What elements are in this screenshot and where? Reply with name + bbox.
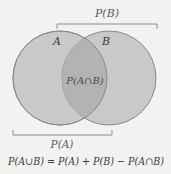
bracket-p-b: [57, 24, 157, 29]
venn-diagram: P(B) A B P(A∩B) P(A) P(A∪B) = P(A) + P(B…: [0, 0, 171, 174]
formula-union: P(A∪B) = P(A) + P(B) − P(A∩B): [7, 155, 164, 167]
bracket-p-a: [13, 130, 112, 135]
label-p-a: P(A): [50, 138, 74, 150]
label-set-b: B: [101, 35, 110, 48]
label-intersection: P(A∩B): [65, 75, 104, 86]
label-set-a: A: [52, 35, 61, 48]
label-p-b: P(B): [94, 7, 119, 20]
